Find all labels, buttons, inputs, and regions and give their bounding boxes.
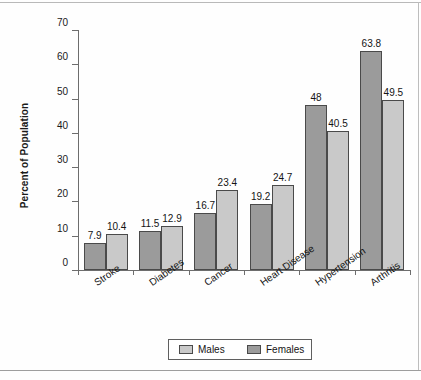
x-axis-tick (189, 270, 190, 275)
bar-females-heart-disease (250, 204, 272, 270)
y-axis-tick (72, 201, 79, 202)
x-axis-tick (78, 270, 79, 275)
y-axis-tick (72, 99, 79, 100)
bar-females-cancer (194, 213, 216, 270)
legend-swatch-males (179, 345, 193, 354)
x-axis-tick (133, 270, 134, 275)
bar-value-label: 19.2 (244, 191, 278, 202)
y-axis-tick-label: 20 (44, 188, 68, 199)
bar-value-label: 10.4 (100, 221, 134, 232)
bar-females-diabetes (139, 231, 161, 270)
legend-label: Females (266, 344, 304, 355)
y-axis-tick-label: 70 (44, 17, 68, 28)
x-axis-tick (244, 270, 245, 275)
y-axis-tick-label: 0 (44, 257, 68, 268)
bar-value-label: 12.9 (155, 213, 189, 224)
bar-value-label: 16.7 (188, 200, 222, 211)
y-axis-tick-label: 30 (44, 154, 68, 165)
bar-chart: Percent of Population 010203040506070 7.… (0, 0, 421, 380)
bar-males-hypertension (327, 131, 349, 270)
x-axis-tick (299, 270, 300, 275)
bar-value-label: 24.7 (266, 172, 300, 183)
y-axis-tick (72, 64, 79, 65)
chart-legend: MalesFemales (168, 339, 312, 360)
x-axis-tick (355, 270, 356, 275)
y-axis-tick-label: 40 (44, 120, 68, 131)
y-axis-tick (72, 167, 79, 168)
bar-males-arthritis (382, 100, 404, 270)
y-axis-label: Percent of Population (19, 76, 30, 236)
y-axis-tick (72, 133, 79, 134)
x-axis-tick (410, 270, 411, 275)
bar-value-label: 63.8 (354, 38, 388, 49)
legend-swatch-females (247, 345, 261, 354)
y-axis-tick (72, 30, 79, 31)
y-axis-tick-label: 10 (44, 223, 68, 234)
y-axis-tick-label: 50 (44, 86, 68, 97)
bar-value-label: 40.5 (321, 118, 355, 129)
bar-females-arthritis (360, 51, 382, 270)
bar-females-stroke (84, 243, 106, 270)
legend-label: Males (198, 344, 225, 355)
bar-value-label: 49.5 (376, 87, 410, 98)
legend-item-females[interactable]: Females (247, 344, 304, 355)
bar-value-label: 23.4 (210, 177, 244, 188)
y-axis-tick-label: 60 (44, 51, 68, 62)
legend-item-males[interactable]: Males (179, 344, 225, 355)
page-canvas: Percent of Population 010203040506070 7.… (0, 0, 421, 380)
bar-value-label: 48 (299, 92, 333, 103)
